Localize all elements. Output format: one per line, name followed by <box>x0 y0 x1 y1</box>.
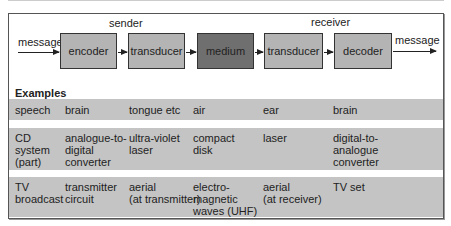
message-in-label: message <box>18 36 63 48</box>
transducer-send-block: transducer <box>128 33 185 69</box>
decoder-block: decoder <box>334 33 392 69</box>
arrow-icon <box>186 52 196 53</box>
arrow-icon <box>255 52 263 53</box>
cell: compact disk <box>193 132 235 156</box>
receiver-label: receiver <box>311 16 350 28</box>
cell: electro- magnetic waves (UHF) <box>193 181 257 217</box>
examples-title: Examples <box>15 87 66 99</box>
cell: ear <box>263 104 279 116</box>
cell: air <box>193 104 205 116</box>
transducer-receive-block: transducer <box>264 33 323 69</box>
cell: transmitter circuit <box>65 181 117 205</box>
cell: CD system (part) <box>15 132 50 168</box>
arrow-message-in-icon <box>18 52 59 53</box>
sender-label: sender <box>109 17 143 29</box>
cell: speech <box>15 104 50 116</box>
cell: laser <box>263 132 287 144</box>
arrow-message-out-icon <box>393 51 436 52</box>
top-rule <box>8 0 444 1</box>
cell: TV set <box>333 181 365 193</box>
example-row-tv-broadcast: TV broadcast transmitter circuit aerial … <box>9 177 443 217</box>
cell: brain <box>333 104 357 116</box>
cell: aerial (at receiver) <box>263 181 322 205</box>
arrow-icon <box>118 52 127 53</box>
cell: analogue-to- digital converter <box>65 132 127 168</box>
example-row-speech: speech brain tongue etc air ear brain <box>9 99 443 120</box>
encoder-block: encoder <box>60 33 117 69</box>
message-out-label: message <box>395 34 440 46</box>
cell: brain <box>65 104 89 116</box>
cell: ultra-violet laser <box>129 132 180 156</box>
example-row-cd-system: CD system (part) analogue-to- digital co… <box>9 128 443 170</box>
medium-block: medium <box>197 33 254 69</box>
arrow-icon <box>324 52 333 53</box>
cell: digital-to- analogue converter <box>333 132 379 168</box>
cell: TV broadcast <box>15 181 63 205</box>
cell: aerial (at transmitter) <box>129 181 201 205</box>
cell: tongue etc <box>129 104 180 116</box>
